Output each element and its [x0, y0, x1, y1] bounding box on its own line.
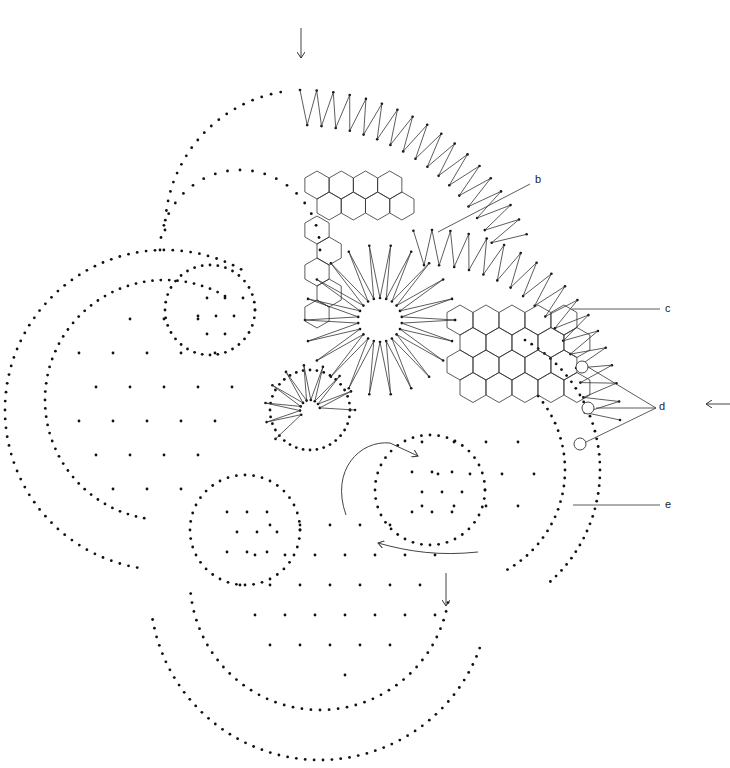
- lace-pricking-diagram: [0, 0, 730, 768]
- label-e: e: [665, 498, 671, 510]
- label-d: d: [659, 400, 665, 412]
- pricking-dots: [4, 89, 622, 762]
- label-leaders: [438, 184, 660, 505]
- label-b: b: [535, 173, 541, 185]
- label-c: c: [665, 302, 671, 314]
- thread-lines: [266, 90, 620, 439]
- direction-arrows: [301, 28, 730, 606]
- pin-circles: [574, 361, 594, 450]
